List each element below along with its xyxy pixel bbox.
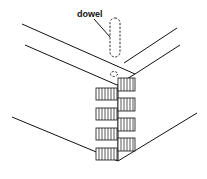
joint-tails-left xyxy=(96,88,117,160)
joint-tails-right xyxy=(118,78,135,151)
dowel-icon xyxy=(110,18,120,77)
dowel-joint-diagram: dowel xyxy=(0,0,207,179)
dowel-leader-line xyxy=(94,19,110,37)
dowel-label: dowel xyxy=(77,9,103,19)
